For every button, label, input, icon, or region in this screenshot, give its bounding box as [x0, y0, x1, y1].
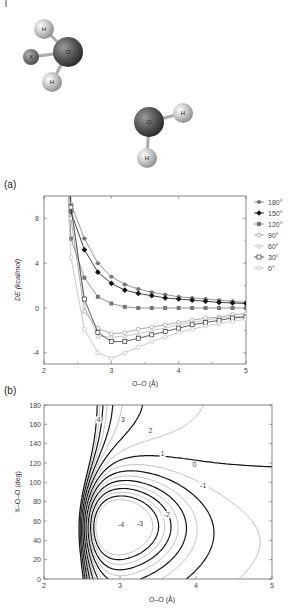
y-tick-label: 60 [33, 518, 41, 525]
y-tick-label: 8 [35, 215, 39, 222]
contour-label: 3 [121, 416, 125, 423]
marker [204, 324, 208, 328]
marker [177, 331, 181, 335]
x-tick-label: 2 [42, 582, 46, 589]
y-tick-label: 0 [35, 305, 39, 312]
legend-label: 150° [268, 210, 283, 217]
marker [150, 340, 154, 344]
contour-label: -2 [164, 511, 170, 518]
contour-label: -4 [118, 521, 124, 528]
contour-minor [84, 405, 204, 579]
marker [69, 205, 73, 209]
atom-label: X [29, 54, 33, 60]
marker [244, 317, 248, 321]
contours [79, 405, 272, 579]
legend-a: 180°150°120°90°60°30°0° [254, 199, 283, 272]
marker [109, 302, 113, 306]
y-tick-label: 0 [37, 576, 41, 583]
contour-label: 1 [161, 450, 165, 457]
x-tick-label: 3 [109, 367, 113, 374]
marker [136, 327, 140, 331]
contour-label: -3 [137, 520, 143, 527]
y-tick-label: 160 [29, 421, 41, 428]
marker [163, 335, 167, 339]
y-tick-label: 120 [29, 460, 41, 467]
y-tick-label: 40 [33, 537, 41, 544]
chart-a: 2345-4048O–O (Å)DE (kcal/mol) [14, 134, 249, 388]
marker [123, 351, 127, 355]
marker [190, 323, 194, 327]
series-6 [68, 190, 248, 360]
marker [163, 306, 167, 310]
molecule-2: OHH [134, 103, 193, 168]
marker [96, 351, 100, 355]
marker [96, 331, 100, 335]
marker [257, 222, 261, 226]
contour-major [86, 471, 214, 579]
marker [82, 309, 86, 313]
chart-b: 2345020406080100120140160180O–O (Å)X–O–O… [14, 402, 274, 605]
marker [217, 322, 221, 326]
contour-label: 4 [97, 416, 101, 423]
marker [257, 266, 261, 270]
marker [123, 340, 127, 344]
marker [109, 356, 113, 360]
marker [231, 319, 235, 323]
x-tick-label: 2 [42, 367, 46, 374]
panel-b-label: (b) [4, 385, 16, 396]
legend-label: 30° [268, 254, 279, 261]
marker [190, 327, 194, 331]
x-axis-label: O–O (Å) [132, 379, 158, 388]
y-tick-label: 100 [29, 479, 41, 486]
x-tick-label: 5 [270, 582, 274, 589]
marker [82, 297, 86, 301]
y-tick-label: 180 [29, 402, 41, 409]
panel-a-label: (a) [4, 179, 16, 190]
contour-label: 2 [148, 427, 152, 434]
molecule-1: HXOH [23, 19, 83, 92]
y-tick-label: -4 [33, 349, 39, 356]
marker [231, 306, 235, 310]
x-axis-label: O–O (Å) [149, 595, 175, 604]
marker [149, 293, 155, 299]
legend-item: 90° [254, 232, 279, 239]
marker [190, 306, 194, 310]
series-line [68, 137, 246, 303]
marker [204, 306, 208, 310]
atom-label: H [42, 26, 46, 32]
marker [163, 330, 167, 334]
legend-item: 30° [254, 254, 279, 261]
legend-label: 120° [268, 221, 283, 228]
series-line [68, 190, 246, 358]
marker [217, 306, 221, 310]
x-tick-label: 3 [118, 582, 122, 589]
x-tick-label: 5 [244, 367, 248, 374]
x-tick-label: 4 [177, 367, 181, 374]
contour-label: 0 [192, 461, 196, 468]
legend-label: 0° [268, 265, 275, 272]
legend-item: 150° [254, 210, 283, 217]
series-group [68, 134, 249, 360]
atom-label: H [145, 155, 149, 161]
marker [256, 210, 262, 216]
marker [243, 301, 249, 307]
marker [82, 247, 88, 253]
marker [96, 295, 100, 299]
marker [136, 336, 140, 340]
marker [177, 326, 181, 330]
marker [244, 306, 248, 310]
marker [150, 333, 154, 337]
legend-label: 90° [268, 232, 279, 239]
marker [109, 340, 113, 344]
x-tick-label: 4 [194, 582, 198, 589]
marker [135, 291, 141, 297]
marker [82, 276, 86, 280]
figure: HXOHOHH(a)2345-4048O–O (Å)DE (kcal/mol)1… [0, 0, 299, 611]
atom-label: H [181, 110, 185, 116]
series-0 [68, 137, 249, 305]
y-axis-label: X–O–O (deg) [14, 471, 22, 513]
series-1 [68, 144, 249, 306]
atom-label: H [50, 79, 54, 85]
marker [82, 327, 86, 331]
atom-label: O [66, 49, 71, 55]
